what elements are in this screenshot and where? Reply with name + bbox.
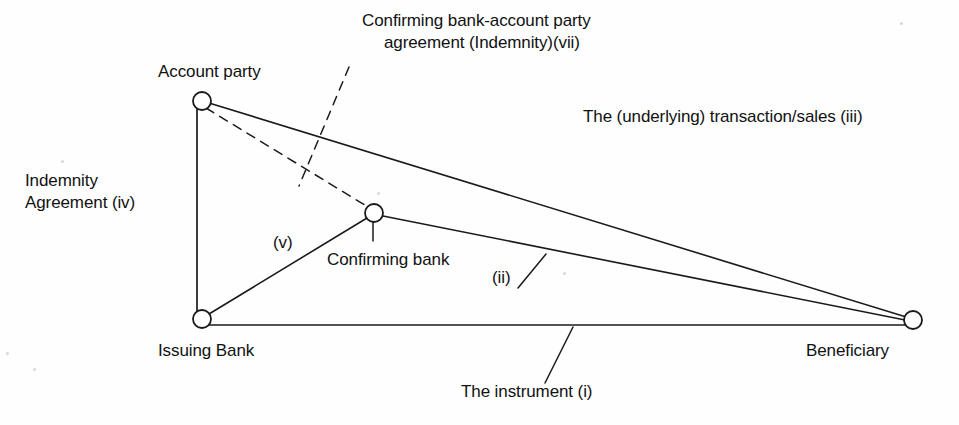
node-confirming-bank[interactable] xyxy=(365,204,383,222)
node-label-confirming-bank: Confirming bank xyxy=(327,249,449,271)
node-beneficiary[interactable] xyxy=(904,311,922,329)
label-indemnity-agreement-line1: Indemnity xyxy=(25,170,98,192)
label-indemnity-agreement-line2: Agreement (iv) xyxy=(25,192,135,214)
scan-speck xyxy=(377,192,380,195)
label-confirming-bank-account-party-agreement-line2: agreement (Indemnity)(vii) xyxy=(384,32,580,54)
edge-roman-ii xyxy=(383,216,910,321)
edge-confirming-bank-account-party-agreement xyxy=(206,108,368,207)
node-label-account-party: Account party xyxy=(158,61,261,83)
leader-line-confirming-bank-agreement xyxy=(299,67,349,186)
edge-underlying-transaction xyxy=(209,103,916,320)
label-the-instrument: The instrument (i) xyxy=(461,381,592,403)
scan-speck xyxy=(61,160,64,163)
label-confirming-bank-account-party-agreement-line1: Confirming bank-account party xyxy=(362,10,591,32)
label-underlying-transaction: The (underlying) transaction/sales (iii) xyxy=(583,106,862,128)
label-roman-v: (v) xyxy=(273,232,293,254)
node-label-beneficiary: Beneficiary xyxy=(806,340,889,362)
label-roman-ii: (ii) xyxy=(492,267,510,289)
node-issuing-bank[interactable] xyxy=(193,310,211,328)
scan-speck xyxy=(900,22,903,25)
leader-line-roman-ii xyxy=(518,254,546,288)
node-account-party[interactable] xyxy=(193,92,211,110)
diagram-canvas: Confirming bank-account party agreement … xyxy=(0,0,959,425)
scan-speck xyxy=(33,368,36,371)
leader-line-the-instrument xyxy=(545,327,573,383)
scan-speck xyxy=(563,272,566,275)
scan-speck xyxy=(6,352,9,355)
node-label-issuing-bank: Issuing Bank xyxy=(158,340,254,362)
